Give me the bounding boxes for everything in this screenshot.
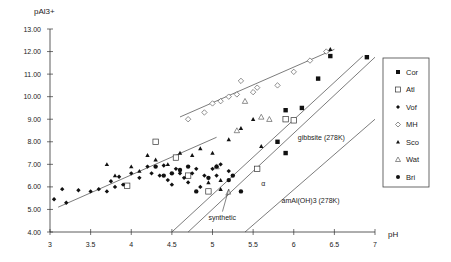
point-cor	[275, 140, 279, 144]
annotation-label: gibbsite (278K)	[298, 134, 345, 142]
y-tick-label: 7.00	[27, 161, 41, 168]
x-tick-label: 4.5	[167, 241, 177, 248]
point-sco	[105, 162, 109, 166]
point-vof	[97, 187, 101, 191]
y-tick-label: 9.00	[27, 116, 41, 123]
point-vof	[137, 176, 141, 180]
annotation-label: synthetic	[208, 214, 236, 222]
point-atl	[153, 139, 158, 144]
data-points	[52, 47, 369, 205]
point-wat	[267, 117, 272, 122]
x-tick-label: 3	[48, 241, 52, 248]
point-vof	[88, 189, 92, 193]
y-tick-label: 11.00	[24, 71, 41, 78]
point-vof	[117, 175, 121, 179]
point-vof	[109, 179, 113, 183]
legend-label: Bri	[406, 173, 416, 182]
point-atl	[291, 118, 296, 123]
point-bri	[194, 189, 198, 193]
point-bri	[214, 164, 218, 168]
point-atl	[283, 117, 288, 122]
y-axis-label: pAl3+	[34, 7, 55, 16]
legend: CorAtlVofMHScoWatBri	[383, 58, 429, 187]
point-sco	[166, 162, 170, 166]
x-tick-label: 5	[211, 241, 215, 248]
point-vof	[186, 180, 190, 184]
point-bri	[178, 168, 182, 172]
point-sco	[328, 47, 332, 51]
point-vof	[202, 173, 206, 177]
point-vof	[157, 173, 161, 177]
point-vof	[60, 187, 64, 191]
point-atl	[206, 189, 211, 194]
point-sco	[113, 173, 117, 177]
legend-label: Vof	[406, 103, 418, 112]
point-cor	[283, 108, 287, 112]
x-tick-label: 4	[129, 241, 133, 248]
point-vof	[218, 162, 222, 166]
point-wat	[242, 98, 247, 103]
scatter-chart: 4.005.006.007.008.009.0010.0011.0012.001…	[0, 0, 451, 262]
point-sco	[251, 117, 255, 121]
point-vof	[174, 167, 178, 171]
point-vof	[129, 171, 133, 175]
point-bri	[162, 173, 166, 177]
point-vof	[113, 185, 117, 189]
point-wat	[234, 128, 239, 133]
legend-label: Cor	[406, 68, 419, 77]
point-bri	[206, 176, 210, 180]
point-vof	[214, 173, 218, 177]
point-mh	[238, 78, 243, 83]
point-bri	[186, 164, 190, 168]
y-tick-label: 12.00	[23, 48, 41, 55]
point-mh	[291, 69, 296, 74]
annotations: gibbsite (278K)syntheticamAl(OH)3 (278K)…	[208, 134, 344, 222]
point-cor	[283, 151, 287, 155]
x-tick-label: 6	[292, 241, 296, 248]
point-vof	[170, 182, 174, 186]
y-tick-label: 10.00	[23, 93, 41, 100]
point-cor	[316, 76, 320, 80]
line-gibbsite-278k-	[188, 57, 375, 232]
point-sco	[129, 164, 133, 168]
point-bri	[170, 171, 174, 175]
point-mh	[250, 89, 255, 94]
point-sco	[218, 178, 222, 182]
point-atl	[185, 173, 190, 178]
point-atl	[173, 155, 178, 160]
legend-label: Wat	[406, 155, 420, 164]
legend-label: MH	[406, 120, 418, 129]
point-vof	[149, 171, 153, 175]
point-vof	[166, 178, 170, 182]
point-vof	[198, 185, 202, 189]
point-cor	[365, 55, 369, 59]
annotation-label: amAl(OH)3 (278K)	[282, 197, 340, 205]
point-wat	[259, 114, 264, 119]
point-mh	[202, 110, 207, 115]
point-sco	[259, 144, 263, 148]
y-tick-label: 8.00	[27, 138, 41, 145]
point-mh	[254, 85, 259, 90]
x-tick-label: 6.5	[330, 241, 340, 248]
point-sco	[198, 146, 202, 150]
point-vof	[105, 189, 109, 193]
point-vof	[76, 188, 80, 192]
y-tick-label: 5.00	[27, 206, 41, 213]
point-bri	[231, 173, 235, 177]
point-mh	[275, 83, 280, 88]
point-vof	[162, 163, 166, 167]
point-vof	[52, 197, 56, 201]
x-tick-label: 7	[373, 241, 377, 248]
point-atl	[124, 183, 129, 188]
legend-label: Sco	[406, 138, 419, 147]
point-mh	[307, 58, 312, 63]
point-sco	[145, 153, 149, 157]
x-tick-label: 3.5	[86, 241, 96, 248]
point-sco	[206, 180, 210, 184]
point-sco	[190, 153, 194, 157]
point-mh	[185, 117, 190, 122]
point-cor	[300, 106, 304, 110]
point-sco	[210, 151, 214, 155]
point-cor	[328, 54, 332, 58]
point-bri	[227, 178, 231, 182]
